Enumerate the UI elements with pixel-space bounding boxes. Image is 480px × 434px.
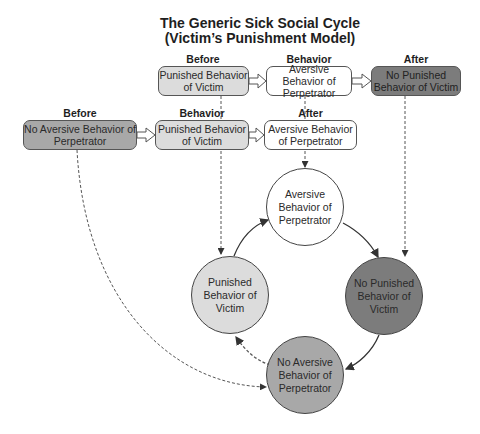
cycle-bottom-circle: No Aversive Behavior of Perpetrator (266, 336, 344, 414)
cycle-right-circle: No Punished Behavior of Victim (345, 257, 423, 335)
top-before-box: Punished Behavior of Victim (158, 66, 249, 96)
bottom-behavior-label: Behavior (155, 107, 249, 119)
bottom-before-label: Before (23, 107, 137, 119)
cycle-left-circle: Punished Behavior of Victim (191, 256, 269, 334)
bottom-before-box: No Aversive Behavior of Perpetrator (23, 120, 137, 150)
top-behavior-box: Aversive Behavior of Perpetrator (266, 66, 352, 96)
bottom-after-label: After (264, 107, 357, 119)
cycle-arrow (343, 223, 378, 257)
dashed-curve-connector (236, 337, 270, 365)
top-after-box: No Punished Behavior of Victim (371, 66, 461, 96)
cycle-top-circle: Aversive Behavior of Perpetrator (266, 168, 344, 246)
cycle-arrow (234, 220, 268, 256)
top-after-label: After (371, 53, 461, 65)
top-before-label: Before (158, 53, 248, 65)
bottom-after-box: Aversive Behavior of Perpetrator (264, 120, 357, 150)
cycle-arrow (346, 335, 379, 369)
bottom-behavior-box: Punished Behavior of Victim (155, 120, 249, 150)
